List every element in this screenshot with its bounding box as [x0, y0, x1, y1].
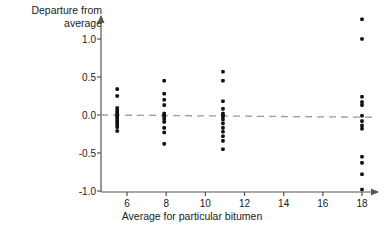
data-point: [115, 94, 119, 98]
zero-reference-line: [101, 115, 374, 117]
data-point: [221, 139, 225, 143]
x-tick-label: 16: [317, 198, 328, 209]
data-point: [221, 130, 225, 134]
data-point: [162, 98, 166, 102]
data-point: [360, 161, 364, 165]
x-tick-label: 8: [163, 198, 169, 209]
data-point-group: [221, 70, 225, 151]
data-point: [221, 118, 225, 122]
data-point: [221, 134, 225, 138]
data-point: [360, 119, 364, 123]
data-point: [360, 37, 364, 41]
data-point: [162, 142, 166, 146]
data-point: [221, 100, 225, 104]
data-point: [360, 17, 364, 21]
data-point: [221, 79, 225, 83]
x-tick-label: 6: [124, 198, 130, 209]
data-point-group: [162, 79, 166, 146]
y-tick-label: 0.5: [56, 72, 96, 83]
x-tick-label: 10: [200, 198, 211, 209]
data-point: [162, 79, 166, 83]
data-point: [221, 126, 225, 130]
data-point: [162, 120, 166, 124]
y-tick-label: -0.5: [56, 148, 96, 159]
y-tick-label: -1.0: [56, 186, 96, 197]
data-point: [162, 126, 166, 130]
data-point-group: [360, 17, 364, 191]
data-point: [360, 188, 364, 192]
data-point: [115, 125, 119, 129]
data-point: [221, 70, 225, 74]
data-point: [360, 155, 364, 159]
data-point: [162, 92, 166, 96]
x-tick-label: 18: [356, 198, 367, 209]
x-tick-label: 12: [239, 198, 250, 209]
data-point: [221, 107, 225, 111]
data-point: [115, 87, 119, 91]
data-point: [360, 172, 364, 176]
data-point: [221, 122, 225, 126]
data-point: [221, 147, 225, 151]
data-point: [162, 103, 166, 107]
y-tick-label: 0.0: [56, 110, 96, 121]
data-point: [360, 95, 364, 99]
data-point: [360, 103, 364, 107]
data-point: [360, 127, 364, 131]
data-point: [162, 131, 166, 135]
data-point: [115, 129, 119, 133]
data-point-group: [115, 87, 119, 132]
data-point: [360, 114, 364, 118]
scatter-chart: Departure from average Average for parti…: [0, 0, 384, 231]
y-tick-label: 1.0: [56, 34, 96, 45]
x-tick-label: 14: [278, 198, 289, 209]
